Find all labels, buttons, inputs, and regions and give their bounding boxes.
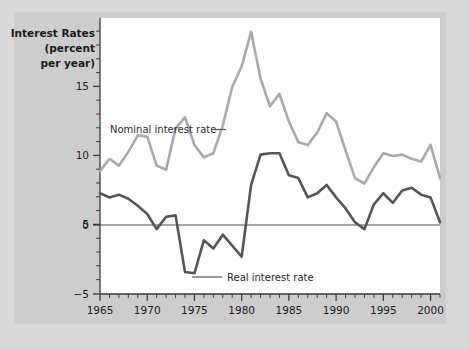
x-tick-label-1975: 1975 [181,304,208,316]
interest-rates-chart: Interest Rates (percent per year) [0,0,469,349]
figure-root: Interest Rates (percent per year) [0,0,469,349]
x-tick-label-1965: 1965 [87,304,114,316]
y-tick-label-15: 15 [76,80,89,92]
x-tick-label-1970: 1970 [134,304,161,316]
x-tick-label-1980: 1980 [228,304,255,316]
x-tick-label-1985: 1985 [276,304,303,316]
nominal-annotation: Nominal interest rate [110,124,226,135]
x-tick-label-2000: 2000 [417,304,444,316]
y-tick-label-neg5: −5 [74,288,89,300]
y-tick-label-0: 0 [82,219,89,231]
real-annotation-label: Real interest rate [227,272,314,283]
nominal-annotation-label: Nominal interest rate [110,124,216,135]
axis-title-line1: Interest Rates [11,27,95,39]
x-tick-label-1995: 1995 [370,304,397,316]
axis-title-line2: (percent [45,42,95,54]
y-tick-label-10: 10 [76,149,89,161]
axis-title-line3: per year) [41,57,96,69]
x-tick-label-1990: 1990 [323,304,350,316]
